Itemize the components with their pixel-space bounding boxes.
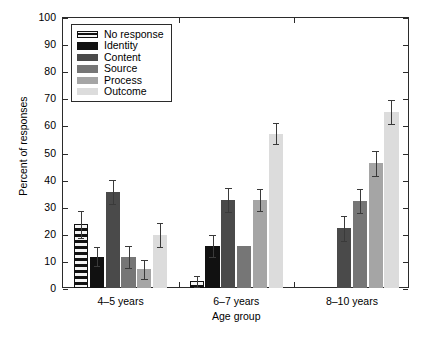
bar <box>369 163 383 288</box>
error-bar-cap-upper <box>225 188 232 189</box>
error-bar-cap-upper <box>273 123 280 124</box>
error-bar-cap-lower <box>78 238 85 239</box>
x-tick-mark-top <box>179 18 180 23</box>
y-tick-mark-right <box>403 289 408 290</box>
bar <box>384 112 398 288</box>
error-bar-cap-lower <box>341 241 348 242</box>
error-bar-line <box>160 223 161 247</box>
y-tick-mark <box>63 235 68 236</box>
error-bar-cap-upper <box>125 246 132 247</box>
y-tick-mark-right <box>403 235 408 236</box>
x-group-label: 6–7 years <box>213 295 259 307</box>
y-tick-label: 60 <box>30 119 56 131</box>
y-tick-mark <box>63 262 68 263</box>
error-bar-line <box>260 189 261 211</box>
error-bar-cap-lower <box>125 268 132 269</box>
y-tick-mark-right <box>403 45 408 46</box>
y-tick-label: 0 <box>30 282 56 294</box>
error-bar-cap-upper <box>341 216 348 217</box>
error-bar-cap-lower <box>257 211 264 212</box>
y-tick-mark-right <box>403 72 408 73</box>
y-tick-mark <box>63 18 68 19</box>
error-bar-cap-upper <box>109 180 116 181</box>
error-bar-cap-lower <box>157 247 164 248</box>
y-tick-label: 20 <box>30 228 56 240</box>
y-axis-title: Percent of responses <box>17 31 29 261</box>
error-bar-cap-upper <box>94 247 101 248</box>
error-bar-line <box>129 246 130 268</box>
bar <box>221 200 235 288</box>
legend-label: Outcome <box>104 86 147 97</box>
x-tick-mark <box>179 282 180 287</box>
error-bar-line <box>344 216 345 240</box>
y-tick-mark-right <box>403 181 408 182</box>
y-tick-mark-right <box>403 99 408 100</box>
bar-chart-figure: Percent of responses 4–5 years6–7 years8… <box>0 0 424 337</box>
legend-swatch-icon <box>77 65 98 73</box>
x-axis-title: Age group <box>212 310 260 322</box>
y-tick-mark <box>63 181 68 182</box>
y-tick-mark-right <box>403 154 408 155</box>
bar <box>106 192 120 288</box>
legend-label: Source <box>104 63 137 74</box>
x-tick-mark <box>294 282 295 287</box>
error-bar-cap-lower <box>225 212 232 213</box>
legend-swatch-icon <box>77 77 98 85</box>
legend-swatch-icon <box>77 88 98 96</box>
x-group-label: 4–5 years <box>98 295 144 307</box>
y-tick-mark <box>63 45 68 46</box>
error-bar-line <box>276 123 277 145</box>
error-bar-line <box>360 189 361 213</box>
y-tick-label: 70 <box>30 92 56 104</box>
error-bar-cap-upper <box>157 223 164 224</box>
error-bar-line <box>97 247 98 266</box>
error-bar-cap-upper <box>388 100 395 101</box>
error-bar-cap-upper <box>194 276 201 277</box>
error-bar-cap-lower <box>109 204 116 205</box>
error-bar-cap-upper <box>257 189 264 190</box>
error-bar-cap-lower <box>209 257 216 258</box>
error-bar-cap-lower <box>194 287 201 288</box>
x-group-label: 8–10 years <box>326 295 378 307</box>
y-tick-mark-right <box>403 262 408 263</box>
bar <box>269 134 283 288</box>
legend-item: Source <box>77 63 164 74</box>
error-bar-line <box>144 260 145 279</box>
y-tick-label: 30 <box>30 201 56 213</box>
y-tick-label: 90 <box>30 38 56 50</box>
bar <box>237 246 251 288</box>
error-bar-cap-lower <box>273 144 280 145</box>
y-tick-mark-right <box>403 208 408 209</box>
error-bar-cap-lower <box>372 176 379 177</box>
error-bar-cap-upper <box>372 151 379 152</box>
error-bar-line <box>213 235 214 257</box>
error-bar-cap-upper <box>78 211 85 212</box>
y-tick-label: 50 <box>30 147 56 159</box>
y-tick-label: 10 <box>30 255 56 267</box>
legend-swatch-icon <box>77 31 98 39</box>
error-bar-cap-lower <box>141 279 148 280</box>
y-tick-mark <box>63 208 68 209</box>
y-tick-mark-right <box>403 18 408 19</box>
error-bar-cap-lower <box>388 124 395 125</box>
error-bar-cap-upper <box>357 189 364 190</box>
y-tick-label: 80 <box>30 65 56 77</box>
error-bar-line <box>113 180 114 204</box>
error-bar-line <box>228 188 229 212</box>
error-bar-line <box>391 100 392 124</box>
legend-swatch-icon <box>77 54 98 62</box>
error-bar-cap-upper <box>141 260 148 261</box>
error-bar-line <box>197 276 198 287</box>
y-tick-mark <box>63 72 68 73</box>
legend-swatch-icon <box>77 42 98 50</box>
y-tick-mark <box>63 154 68 155</box>
y-tick-mark-right <box>403 126 408 127</box>
y-tick-label: 40 <box>30 174 56 186</box>
y-tick-mark <box>63 126 68 127</box>
error-bar-cap-lower <box>94 266 101 267</box>
legend: No responseIdentityContentSourceProcessO… <box>71 24 172 102</box>
error-bar-line <box>81 211 82 238</box>
error-bar-cap-upper <box>209 235 216 236</box>
y-tick-mark <box>63 289 68 290</box>
legend-item: Outcome <box>77 86 164 97</box>
